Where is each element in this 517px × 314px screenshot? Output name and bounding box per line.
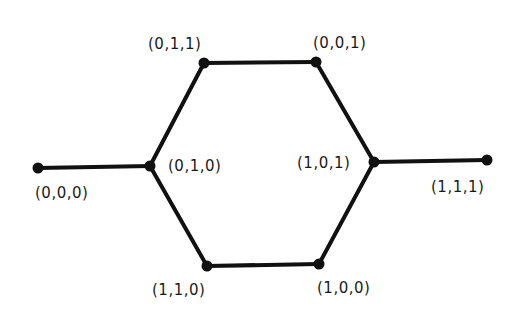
edge-010-011 — [150, 63, 204, 166]
node-100-dot — [314, 259, 325, 270]
node-111-dot — [482, 155, 493, 166]
node-011-label: (0,1,1) — [148, 37, 201, 52]
edge-000-010 — [38, 166, 150, 168]
node-110-label: (1,1,0) — [152, 283, 205, 298]
node-000-label: (0,0,0) — [35, 186, 88, 201]
node-001-dot — [311, 57, 322, 68]
node-000-dot — [33, 163, 44, 174]
node-010-label: (0,1,0) — [168, 159, 221, 174]
node-100-label: (1,0,0) — [317, 281, 370, 296]
graph-edges — [38, 62, 487, 266]
node-101-label: (1,0,1) — [297, 156, 350, 171]
node-110-dot — [202, 261, 213, 272]
hexagon-graph-diagram — [0, 0, 517, 314]
graph-nodes — [33, 57, 493, 272]
edge-100-101 — [319, 162, 374, 264]
edge-001-101 — [316, 62, 374, 162]
node-001-label: (0,0,1) — [313, 36, 366, 51]
node-010-dot — [145, 161, 156, 172]
edge-110-100 — [207, 264, 319, 266]
edge-010-110 — [150, 166, 207, 266]
node-111-label: (1,1,1) — [431, 180, 484, 195]
node-011-dot — [199, 58, 210, 69]
edge-011-001 — [204, 62, 316, 63]
node-101-dot — [369, 157, 380, 168]
edge-101-111 — [374, 160, 487, 162]
